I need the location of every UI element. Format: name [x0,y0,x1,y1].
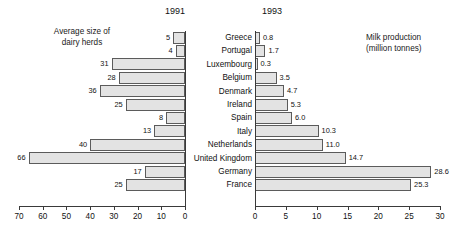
bar-value-label: 13 [143,124,151,137]
bar-right-united-kingdom [255,152,346,164]
left-panel-bar-row: 25 [19,178,185,191]
right-panel-bar-row: 5.3 [255,98,440,111]
bar-value-label: 6.0 [295,111,305,124]
category-label-denmark: Denmark [219,85,252,98]
right-panel-bar-row: 14.7 [255,152,440,165]
bar-value-label: 10.3 [322,124,336,137]
bar-right-france [255,179,411,191]
bar-value-label: 25 [114,178,122,191]
x-tick-label: 40 [77,211,103,222]
x-tick [409,206,410,210]
chart-figure: 1991 1993 Average size of dairy herds Mi… [0,0,471,237]
x-tick-label: 20 [125,211,151,222]
bar-value-label: 40 [79,138,87,151]
bar-value-label: 0.3 [261,57,271,70]
x-tick-label: 10 [304,211,330,222]
left-panel-bar-row: 25 [19,98,185,111]
left-panel-bar-row: 40 [19,138,185,151]
bar-left-netherlands [90,139,185,151]
category-label-italy: Italy [237,125,252,138]
x-tick [185,206,186,210]
right-panel-bar-row: 10.3 [255,125,440,138]
category-label-spain: Spain [231,111,252,124]
x-tick-label: 60 [30,211,56,222]
bar-value-label: 4 [168,44,172,57]
bar-value-label: 4.7 [287,84,297,97]
x-tick [286,206,287,210]
x-tick-label: 5 [273,211,299,222]
bar-left-germany [145,166,185,178]
category-label-germany: Germany [218,165,252,178]
bar-value-label: 28 [107,71,115,84]
x-tick [114,206,115,210]
x-tick [43,206,44,210]
bar-left-portugal [176,45,185,57]
right-panel-plot-area: 0.81.70.33.54.75.36.010.311.014.728.625.… [255,31,440,205]
category-label-france: France [227,178,252,191]
left-panel-bar-row: 66 [19,152,185,165]
bar-right-netherlands [255,139,323,151]
bar-value-label: 8 [159,111,163,124]
bar-value-label: 31 [100,57,108,70]
category-label-united-kingdom: United Kingdom [194,152,252,165]
x-tick-label: 0 [242,211,268,222]
category-label-greece: Greece [225,31,252,44]
x-tick [440,206,441,210]
left-panel-bar-row: 36 [19,85,185,98]
x-tick [66,206,67,210]
left-panel-bar-row: 4 [19,44,185,57]
right-panel-year-title: 1993 [252,6,292,16]
x-tick-label: 10 [148,211,174,222]
x-tick-label: 30 [101,211,127,222]
bar-value-label: 17 [133,165,141,178]
x-tick [161,206,162,210]
bar-value-label: 3.5 [280,71,290,84]
left-panel-bar-row: 13 [19,125,185,138]
x-tick [317,206,318,210]
left-panel-bar-row: 28 [19,71,185,84]
bar-value-label: 5.3 [291,98,301,111]
category-label-column: GreecePortugalLuxembourgBelgiumDenmarkIr… [186,31,254,205]
x-tick [378,206,379,210]
right-panel-bar-row: 3.5 [255,71,440,84]
right-panel-bar-row: 0.3 [255,58,440,71]
bar-right-belgium [255,72,277,84]
x-tick [138,206,139,210]
bar-value-label: 0.8 [263,31,273,44]
x-tick-label: 15 [335,211,361,222]
x-tick [348,206,349,210]
x-tick-label: 25 [396,211,422,222]
category-label-portugal: Portugal [222,44,253,57]
left-panel-bar-row: 31 [19,58,185,71]
bar-value-label: 36 [88,84,96,97]
bar-value-label: 11.0 [326,138,340,151]
bar-left-spain [166,112,185,124]
right-panel-bar-row: 4.7 [255,85,440,98]
right-panel-bar-row: 25.3 [255,178,440,191]
bar-right-germany [255,166,431,178]
bar-value-label: 5 [166,31,170,44]
bar-value-label: 28.6 [434,165,448,178]
left-panel-plot-area: 543128362581340661725 [19,31,185,205]
bar-right-italy [255,125,319,137]
bar-right-denmark [255,85,284,97]
bar-left-denmark [100,85,185,97]
bar-value-label: 66 [17,151,25,164]
x-tick-label: 0 [172,211,198,222]
bar-left-luxembourg [112,58,186,70]
x-tick-label: 30 [427,211,453,222]
left-panel-bar-row: 5 [19,31,185,44]
x-tick [90,206,91,210]
bar-value-label: 1.7 [268,44,278,57]
bar-right-spain [255,112,292,124]
bar-right-ireland [255,99,288,111]
right-panel-bar-row: 6.0 [255,111,440,124]
x-tick [19,206,20,210]
left-panel-bar-row: 17 [19,165,185,178]
category-label-belgium: Belgium [222,71,252,84]
bar-left-italy [154,125,185,137]
bar-left-france [126,179,185,191]
bar-value-label: 25 [114,98,122,111]
category-label-netherlands: Netherlands [208,138,252,151]
left-panel-year-title: 1991 [155,6,195,16]
